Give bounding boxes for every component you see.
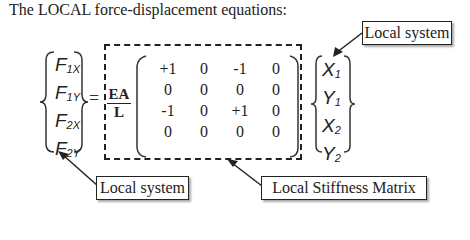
disp-left-brace-icon	[311, 56, 322, 152]
force-entry: F2Y	[55, 137, 80, 165]
displacement-vector: X1 Y1 X2 Y2	[322, 58, 341, 170]
stiffness-matrix: +10-10 0000 -10+10 0000	[150, 58, 296, 142]
disp-entry: Y1	[322, 86, 341, 114]
disp-entry: Y2	[322, 142, 341, 170]
disp-entry: X1	[322, 58, 341, 86]
callout-local-stiffness-matrix: Local Stiffness Matrix	[261, 176, 427, 200]
matrix-row: 0000	[150, 79, 296, 100]
ea-over-l-factor: EA L	[107, 86, 131, 121]
force-entry: F1Y	[55, 81, 80, 109]
factor-numerator: EA	[107, 86, 131, 104]
equals-sign: =	[89, 88, 99, 109]
callout-local-system-bottom: Local system	[96, 176, 189, 200]
disp-entry: X2	[322, 114, 341, 142]
force-entry: F1X	[55, 53, 80, 81]
callout-local-system-top: Local system	[362, 21, 452, 45]
force-entry: F2X	[55, 109, 80, 137]
disp-right-brace-icon	[344, 56, 355, 152]
matrix-row: +10-10	[150, 58, 296, 79]
left-brace-icon	[40, 52, 54, 152]
force-vector: F1X F1Y F2X F2Y	[55, 53, 80, 165]
matrix-row: 0000	[150, 121, 296, 142]
factor-denominator: L	[114, 104, 124, 120]
matrix-row: -10+10	[150, 100, 296, 121]
